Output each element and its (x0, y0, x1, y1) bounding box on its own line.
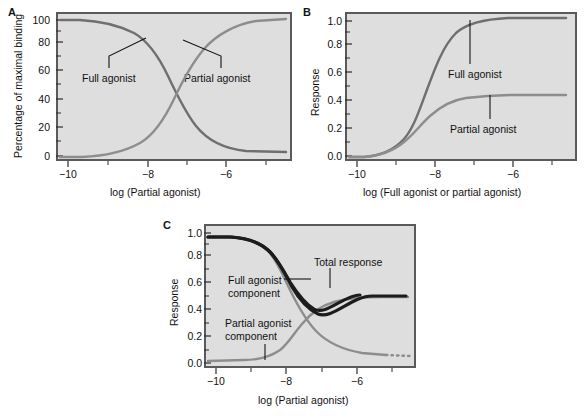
figure-root: { "figure": { "title": "Full agonist and… (0, 0, 587, 418)
panel-c-curve-full-agonist-dotted (386, 355, 410, 356)
panel-c-y-ticks (204, 233, 211, 363)
panel-c-x-ticks (216, 368, 392, 374)
panel-c-graphics (0, 0, 587, 418)
